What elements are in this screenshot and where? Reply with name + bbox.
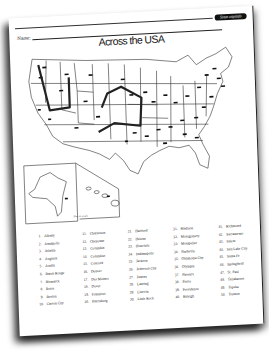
- alaska-inset: [24, 163, 78, 224]
- capitals-column-2: 11.Charleston 12.Cheyenne 13.Columbia 14…: [76, 229, 123, 307]
- list-item: 20.Harrisburg: [78, 297, 122, 307]
- list-item: 40.Raleigh: [169, 293, 213, 303]
- list-item: 50.Trenton: [214, 290, 258, 300]
- usa-map: [16, 42, 254, 226]
- capitals-column-4: 31.Madison 32.Montgomery 33.Montpelier 3…: [166, 224, 213, 302]
- list-item: 30.Little Rock: [123, 295, 167, 305]
- hawaii-inset: [76, 161, 120, 219]
- list-item: 10.Carson City: [33, 300, 77, 310]
- capitals-column-3: 21.Hartford 22.Helena 23.Honolulu 24.Ind…: [121, 227, 168, 305]
- capital-markers: [36, 57, 228, 200]
- capitals-column-1: 1.Albany 2.Annapolis 3.Atlanta 4.Augusta…: [30, 231, 77, 309]
- worksheet-page: State capitals Name: Across the USA: [9, 6, 265, 337]
- state-capitals-badge: State capitals: [215, 13, 247, 21]
- capitals-column-5: 41.Richmond 42.Sacramento 43.Salem 44.Sa…: [212, 222, 259, 300]
- capitals-list: 1.Albany 2.Annapolis 3.Atlanta 4.Augusta…: [30, 222, 258, 310]
- state-outlines: [28, 47, 236, 180]
